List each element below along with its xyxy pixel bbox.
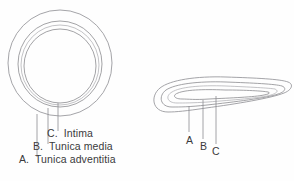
cross-section-ring-adventitia-inner <box>18 21 102 107</box>
longitudinal-contour-media <box>168 86 277 103</box>
longitudinal-section-view <box>154 77 292 112</box>
cross-section-view <box>8 10 112 116</box>
legend-item-tunica-media: B. Tunica media <box>33 141 113 152</box>
label-c: C <box>212 145 220 157</box>
legend-item-intima: C. Intima <box>47 128 93 139</box>
label-a: A <box>186 134 193 146</box>
cross-section-ring-adventitia-outer <box>8 10 112 116</box>
figure-root: C. Intima B. Tunica media A. Tunica adve… <box>0 0 294 181</box>
label-b: B <box>200 140 207 152</box>
cross-section-ring-media <box>21 25 99 105</box>
cross-section-ring-intima <box>24 29 96 103</box>
legend-item-tunica-adventitia: A. Tunica adventitia <box>19 154 116 165</box>
